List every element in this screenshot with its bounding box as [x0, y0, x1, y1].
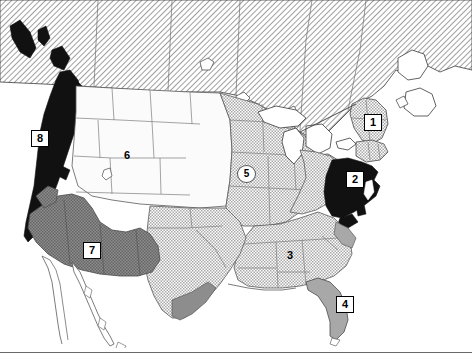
map-marker-6[interactable]: 6 [120, 148, 134, 162]
map-marker-3[interactable]: 3 [283, 248, 297, 262]
map-marker-8[interactable]: 8 [31, 130, 49, 147]
map-marker-7[interactable]: 7 [83, 242, 101, 259]
region-southern-plains [144, 206, 246, 320]
footer-divider-rule [0, 352, 472, 353]
baja-peninsula-west-coast [42, 256, 62, 344]
map-marker-5[interactable]: 5 [237, 165, 256, 183]
lake-ontario [336, 138, 356, 150]
map-figure: 1 2 3 4 5 6 7 8 [0, 0, 472, 364]
nova-scotia [404, 88, 436, 116]
map-marker-2[interactable]: 2 [346, 171, 364, 188]
map-marker-1[interactable]: 1 [364, 114, 382, 131]
map-marker-4[interactable]: 4 [336, 296, 354, 313]
region-southern-new-england [356, 140, 388, 162]
north-america-map [0, 0, 472, 364]
region-interior-west [72, 86, 232, 208]
florida-keys [330, 338, 340, 346]
